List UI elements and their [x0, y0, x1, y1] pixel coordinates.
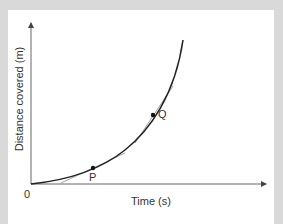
- point-q-marker: [151, 113, 155, 117]
- y-axis-label: Distance covered (m): [13, 47, 25, 152]
- point-q-label: Q: [158, 108, 167, 120]
- point-p-label: P: [89, 171, 96, 183]
- distance-time-graph: [0, 0, 283, 224]
- x-axis-label: Time (s): [131, 195, 171, 207]
- origin-label: 0: [24, 188, 30, 200]
- point-p-marker: [91, 166, 95, 170]
